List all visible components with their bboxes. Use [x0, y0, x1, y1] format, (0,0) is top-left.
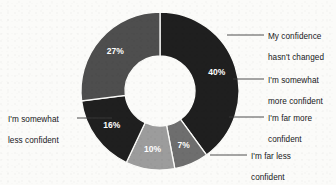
slice-percentage-label: 10%: [144, 144, 161, 154]
label-line-1: My confidence: [268, 32, 321, 41]
label-somewhat-more-confident: I'm somewhat more confident: [268, 65, 334, 107]
label-line-2: hasn't changed: [268, 53, 324, 62]
label-line-1: I'm somewhat: [8, 115, 59, 124]
label-line-1: I'm far less: [251, 152, 291, 161]
slice-percentage-label: 7%: [178, 140, 191, 150]
slice-percentage-label: 40%: [208, 67, 225, 77]
label-somewhat-less-confident: I'm somewhat less confident: [8, 104, 74, 146]
label-far-more-confident: I'm far more confident: [268, 103, 334, 145]
label-line-2: less confident: [8, 136, 59, 145]
label-line-1: I'm somewhat: [268, 76, 319, 85]
chart-page: 40%7%10%16%27% My confidence hasn't chan…: [0, 0, 336, 185]
label-far-less-confident: I'm far less confident: [251, 141, 321, 183]
label-line-1: I'm far more: [268, 114, 312, 123]
label-confidence-unchanged: My confidence hasn't changed: [268, 21, 334, 63]
slice-percentage-label: 16%: [103, 120, 120, 130]
slice-percentage-label: 27%: [107, 46, 124, 56]
donut-slice[interactable]: [81, 12, 160, 101]
label-line-2: confident: [251, 173, 285, 182]
